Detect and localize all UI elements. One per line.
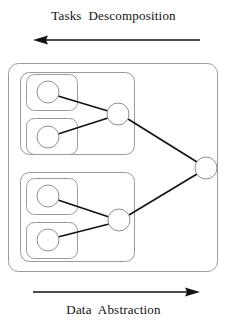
leaf-node-1 xyxy=(37,81,59,103)
leaf-node-3 xyxy=(37,185,59,207)
intermediate-node-top xyxy=(107,103,129,125)
root-node xyxy=(195,157,217,179)
intermediate-node-bottom xyxy=(108,209,130,231)
tasks-decomposition-arrow-head xyxy=(33,36,48,45)
leaf-node-4 xyxy=(37,229,59,251)
data-abstraction-arrow-head xyxy=(185,288,200,297)
edge-leaf1-to-top xyxy=(58,96,108,111)
edge-leaf4-to-bottom xyxy=(58,224,109,237)
top-caption-label: Tasks Descomposition xyxy=(0,8,227,24)
leaf-node-2 xyxy=(37,126,59,148)
data-abstraction-arrow xyxy=(33,288,200,297)
bottom-caption-label: Data Abstraction xyxy=(0,302,227,318)
tasks-decomposition-diagram: Tasks Descomposition xyxy=(0,0,227,328)
edge-leaf2-to-top xyxy=(58,118,108,134)
tasks-decomposition-arrow xyxy=(33,36,200,45)
diagram-canvas xyxy=(0,0,227,328)
edge-top-to-root xyxy=(128,119,197,162)
edge-bottom-to-root xyxy=(129,174,197,215)
